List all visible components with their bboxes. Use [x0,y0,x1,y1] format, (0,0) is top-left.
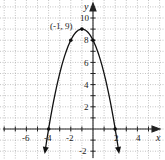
data-point [91,38,95,42]
curve-arrow-right-icon [115,147,121,154]
x-tick-label-4: 4 [136,133,141,143]
vertex-label: (-1, 9) [50,21,73,31]
x-tick-label-neg2: -2 [66,133,74,143]
parabola-curve [45,29,118,150]
y-tick-label-2: 2 [84,102,89,112]
data-point [80,27,84,31]
x-tick-label-2: 2 [114,133,119,143]
x-tick-label-neg6: -6 [22,133,30,143]
y-tick-label-6: 6 [84,58,89,68]
parabola-graph: y x (-1, 9) -6 -4 -2 2 4 10 8 6 4 2 -2 [0,0,165,160]
y-tick-label-4: 4 [84,80,89,90]
y-tick-label-neg2: -2 [79,146,87,156]
data-point [69,38,73,42]
y-tick-label-8: 8 [84,35,89,45]
x-tick-label-neg4: -4 [44,133,52,143]
data-point [47,127,51,131]
curve-arrow-left-icon [43,147,49,154]
x-axis-label: x [155,132,161,143]
graph-canvas: y x (-1, 9) -6 -4 -2 2 4 10 8 6 4 2 -2 [0,0,165,160]
y-axis-label: y [83,1,89,12]
data-point [113,127,117,131]
y-tick-label-10: 10 [80,13,90,23]
